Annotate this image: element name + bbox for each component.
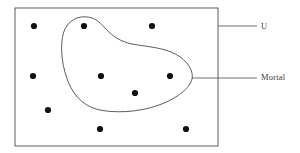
universe-rectangle [15,8,218,146]
element-point [81,23,87,29]
element-points-group [30,23,189,132]
element-point [30,73,36,79]
mortal-label: Mortal [261,73,285,82]
element-point [183,126,189,132]
element-point [167,73,173,79]
mortal-subset-blob [62,17,193,112]
element-point [132,90,138,96]
diagram-canvas: U Mortal [0,0,300,153]
universe-label: U [261,22,267,31]
element-point [31,23,37,29]
element-point [97,126,103,132]
element-point [149,23,155,29]
element-point [98,73,104,79]
element-point [45,107,51,113]
euler-diagram-svg [0,0,300,153]
